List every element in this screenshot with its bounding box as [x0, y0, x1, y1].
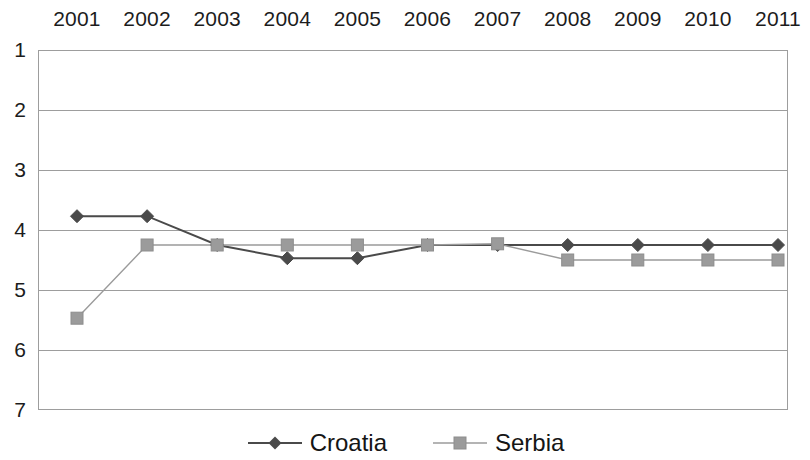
data-point-marker: [281, 252, 294, 265]
legend-entry: Serbia: [431, 429, 564, 457]
series-lines: [77, 216, 778, 318]
data-point-marker: [351, 252, 364, 265]
line-chart: 2001200220032004200520062007200820092010…: [0, 0, 810, 460]
legend-label: Serbia: [495, 429, 564, 457]
data-point-marker: [492, 238, 504, 250]
chart-legend: CroatiaSerbia: [0, 426, 810, 460]
data-point-marker: [772, 239, 785, 252]
gridlines: [38, 111, 788, 351]
data-point-marker: [211, 239, 223, 251]
data-point-marker: [71, 312, 83, 324]
data-point-marker: [702, 254, 714, 266]
data-point-marker: [281, 239, 293, 251]
legend-key-diamond-icon: [246, 433, 304, 453]
series-line: [77, 244, 778, 318]
legend-key-square-icon: [431, 433, 489, 453]
data-point-marker: [351, 239, 363, 251]
data-point-marker: [631, 239, 644, 252]
data-point-marker: [141, 210, 154, 223]
data-point-marker: [71, 210, 84, 223]
legend-entry: Croatia: [246, 429, 387, 457]
data-point-marker: [561, 239, 574, 252]
plot-area: [0, 0, 810, 460]
legend-label: Croatia: [310, 429, 387, 457]
data-point-marker: [701, 239, 714, 252]
series-markers: [71, 210, 785, 325]
data-point-marker: [562, 254, 574, 266]
data-point-marker: [632, 254, 644, 266]
data-point-marker: [772, 254, 784, 266]
data-point-marker: [422, 239, 434, 251]
data-point-marker: [141, 239, 153, 251]
